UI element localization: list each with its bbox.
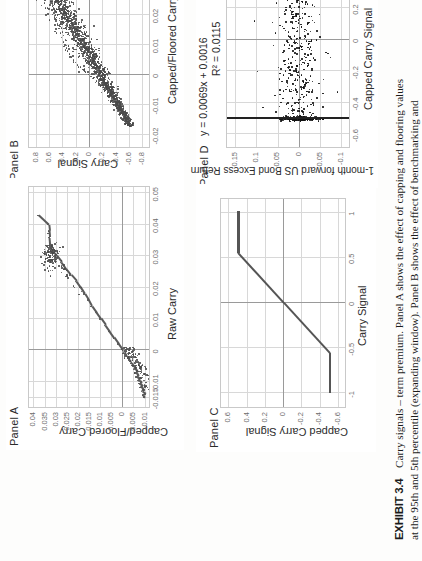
data-point	[292, 14, 294, 16]
data-point	[299, 16, 301, 18]
data-point	[282, 52, 284, 54]
data-point	[119, 113, 121, 115]
data-point	[84, 51, 86, 53]
data-point	[139, 377, 141, 379]
data-point	[135, 367, 137, 369]
data-point	[48, 8, 50, 10]
data-point	[279, 17, 281, 19]
data-point	[78, 53, 80, 55]
gridline-horizontal	[100, 187, 101, 407]
data-point	[76, 26, 78, 28]
data-point	[292, 56, 294, 58]
panel-c-title: Panel C	[208, 407, 220, 448]
data-point-outlier	[262, 107, 264, 109]
data-point	[279, 78, 281, 80]
data-point	[76, 11, 78, 13]
x-tick-label: -0.01	[151, 374, 160, 391]
data-point	[56, 32, 58, 34]
plot-line-segment	[91, 306, 97, 313]
exhibit-page: Panel B Capped/Floored Carry Carry Signa…	[0, 0, 422, 561]
x-tick-label: -0.02	[151, 127, 160, 144]
data-point	[128, 122, 130, 124]
data-point	[47, 13, 49, 15]
y-tick-label: 0.15	[230, 152, 239, 182]
data-point	[312, 113, 314, 115]
x-tick-label: 0.5	[347, 254, 356, 264]
data-point	[69, 15, 71, 17]
cap-column-left	[227, 117, 349, 119]
panel-d-xlabel: Capped Carry Signal	[362, 8, 374, 110]
data-point	[58, 14, 60, 16]
data-point	[96, 80, 98, 82]
data-point	[307, 3, 309, 5]
data-point	[51, 260, 53, 262]
data-point	[112, 91, 114, 93]
x-tick-label: 0	[151, 74, 160, 78]
data-point	[78, 8, 80, 10]
data-point	[98, 50, 100, 52]
data-point	[287, 86, 289, 88]
data-point	[79, 55, 81, 57]
data-point	[285, 70, 287, 72]
data-point	[68, 48, 70, 50]
data-point	[123, 118, 125, 120]
y-tick-label: -0.1	[335, 152, 344, 182]
data-point	[73, 3, 75, 5]
data-point	[310, 104, 312, 106]
data-point	[301, 94, 303, 96]
data-point	[145, 382, 147, 384]
data-point	[283, 28, 285, 30]
data-point	[294, 102, 296, 104]
y-tick-label: -0.2	[296, 412, 305, 442]
data-point	[86, 42, 88, 44]
data-point	[287, 0, 289, 1]
x-tick-label: -0.6	[351, 129, 360, 142]
data-point	[67, 277, 69, 279]
data-point	[296, 66, 298, 68]
data-point	[132, 125, 134, 127]
data-point	[306, 94, 308, 96]
data-point	[280, 102, 282, 104]
gridline-vertical	[227, 71, 349, 72]
data-point	[307, 24, 309, 26]
data-point	[301, 107, 303, 109]
data-point	[50, 275, 52, 277]
data-point	[63, 46, 65, 48]
data-point	[56, 9, 58, 11]
data-point	[287, 83, 289, 85]
plot-line-segment	[237, 247, 239, 253]
data-point	[289, 44, 291, 46]
data-point	[59, 247, 61, 249]
data-point	[284, 13, 286, 15]
data-point	[47, 251, 49, 253]
data-point	[59, 251, 61, 253]
data-point	[296, 31, 298, 33]
data-point	[286, 81, 288, 83]
data-point	[60, 21, 62, 23]
data-point	[281, 119, 283, 121]
data-point	[294, 43, 296, 45]
gridline-horizontal	[338, 199, 339, 407]
data-point	[295, 21, 297, 23]
x-tick-label: 0.2	[351, 4, 360, 14]
data-point	[44, 0, 46, 1]
panel-d-equation-line1: y = 0.0069x + 0.0016	[197, 37, 210, 136]
data-point	[72, 51, 74, 53]
data-point	[57, 251, 59, 253]
data-point	[82, 48, 84, 50]
data-point	[298, 47, 300, 49]
data-point	[80, 43, 82, 45]
panel-c-xlabel: Carry Signal	[356, 285, 368, 346]
data-point	[70, 31, 72, 33]
data-point	[74, 29, 76, 31]
data-point	[299, 37, 301, 39]
data-point	[308, 16, 310, 18]
data-point	[146, 374, 148, 376]
data-point	[52, 270, 54, 272]
data-point	[294, 80, 296, 82]
data-point	[94, 61, 96, 63]
data-point	[63, 264, 65, 266]
data-point	[305, 60, 307, 62]
data-point	[291, 8, 293, 10]
data-point	[109, 89, 111, 91]
